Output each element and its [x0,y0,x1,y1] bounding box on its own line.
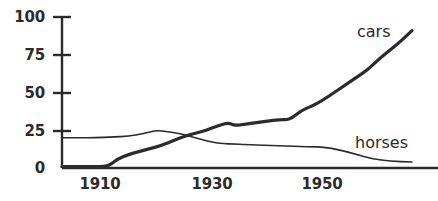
series-label-horses: horses [355,133,408,152]
y-axis-tick-label-100: 100 [5,8,45,26]
line-chart: 100 75 50 25 0 1910 1930 1950 cars horse… [0,0,438,201]
x-axis-tick-label-1930: 1930 [182,175,242,193]
y-axis-tick-label-25: 25 [5,122,45,140]
y-axis-tick-label-0: 0 [5,159,45,177]
x-axis-tick-label-1910: 1910 [70,175,130,193]
series-label-cars: cars [357,22,391,41]
y-axis-tick-label-50: 50 [5,84,45,102]
x-axis-tick-label-1950: 1950 [292,175,352,193]
y-axis-tick-label-75: 75 [5,46,45,64]
